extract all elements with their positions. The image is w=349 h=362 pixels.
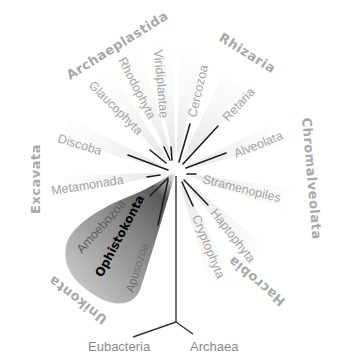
phylogenetic-tree-diagram: Discoba Metamonada Glaucophyta Rhodophyt… <box>0 0 349 362</box>
label-excavata: Excavata <box>28 144 43 214</box>
branch-viridiplantae <box>171 147 172 160</box>
label-hacrobia: Hacrobia <box>225 253 288 309</box>
root-branch-eubacteria <box>133 322 176 337</box>
label-stramenopiles: Stramenopiles <box>201 172 282 205</box>
root-branch-archaea <box>176 322 193 334</box>
label-eubacteria: Eubacteria <box>88 339 151 354</box>
label-chromalveolata: Chromalveolata <box>299 117 325 240</box>
tree-canvas: Discoba Metamonada Glaucophyta Rhodophyt… <box>0 0 349 362</box>
label-rhizaria: Rhizaria <box>216 30 278 76</box>
label-archaea: Archaea <box>190 339 239 354</box>
